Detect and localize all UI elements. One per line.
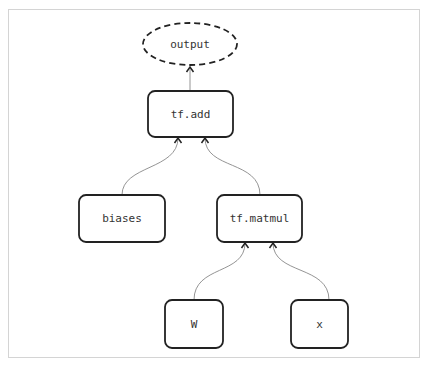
- node-tf-matmul[interactable]: tf.matmul: [217, 195, 302, 242]
- node-biases[interactable]: biases: [79, 195, 165, 242]
- node-tf-add[interactable]: tf.add: [148, 91, 233, 137]
- node-biases-label: biases: [102, 212, 142, 225]
- node-W-label: W: [191, 318, 198, 331]
- node-tf-add-label: tf.add: [171, 108, 211, 121]
- node-W[interactable]: W: [165, 300, 223, 348]
- node-output[interactable]: output: [143, 23, 237, 65]
- computation-graph: output tf.add biases tf.matmul W x: [0, 0, 426, 365]
- edge-x-matmul: [273, 243, 329, 300]
- node-tf-matmul-label: tf.matmul: [230, 212, 290, 225]
- edge-W-matmul: [194, 243, 245, 300]
- edge-matmul-add: [205, 138, 260, 195]
- node-x[interactable]: x: [291, 300, 348, 348]
- node-output-label: output: [170, 38, 210, 51]
- edge-biases-add: [122, 138, 178, 195]
- node-x-label: x: [316, 318, 323, 331]
